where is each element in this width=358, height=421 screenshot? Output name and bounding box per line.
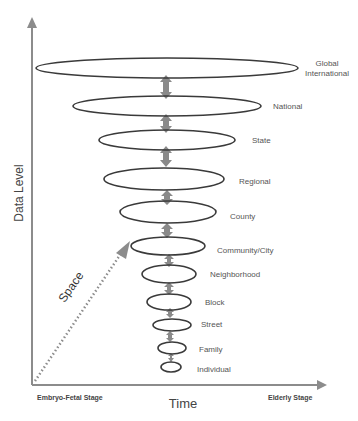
ellipse-block	[147, 294, 191, 310]
ellipse-neighborhood	[142, 265, 196, 283]
level-label-line1: Global	[305, 59, 349, 69]
level-label-family: Family	[199, 345, 223, 355]
level-label-national: National	[273, 102, 302, 112]
level-label-individual: Individual	[197, 365, 231, 375]
x-axis-arrowhead	[317, 380, 327, 390]
level-label-line2: International	[305, 69, 349, 79]
ellipse-community	[131, 237, 205, 255]
y-axis-label: Data Level	[12, 164, 26, 221]
double-arrow-icon	[166, 331, 174, 342]
level-label-neighborhood: Neighborhood	[210, 270, 260, 280]
ellipse-family	[158, 342, 186, 354]
x-end-label: Elderly Stage	[268, 394, 312, 401]
ellipse-national	[73, 96, 261, 116]
ellipse-state	[99, 130, 235, 150]
ellipse-individual	[161, 362, 181, 372]
level-label-global: Global International	[305, 59, 349, 79]
level-ellipses	[36, 58, 298, 372]
level-label-state: State	[252, 136, 271, 146]
double-arrow-icon	[164, 282, 174, 295]
ellipse-street	[153, 319, 191, 331]
level-label-community: Community/City	[217, 246, 273, 256]
level-label-county: County	[230, 212, 255, 222]
double-arrow-icon	[161, 223, 173, 238]
x-start-label: Embryo-Fetal Stage	[37, 394, 103, 401]
ellipse-global	[36, 58, 298, 78]
space-arrowhead	[116, 241, 130, 259]
level-label-regional: Regional	[239, 177, 271, 187]
ellipse-county	[120, 201, 216, 223]
double-arrow-icon	[161, 190, 173, 205]
level-label-block: Block	[205, 298, 225, 308]
level-label-street: Street	[201, 320, 222, 330]
x-axis-label: Time	[169, 396, 197, 411]
y-axis-arrowhead	[27, 17, 37, 28]
double-arrow-icon	[160, 146, 172, 167]
ellipse-regional	[104, 168, 224, 190]
